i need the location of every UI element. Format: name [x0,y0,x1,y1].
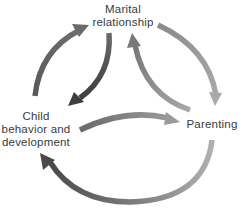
node-child-line-3: development [0,136,72,149]
node-child-behavior-development: Child behavior and development [0,110,72,149]
family-systems-diagram: Marital relationship Child behavior and … [0,0,241,208]
arrow-parenting-to-marital [127,33,190,110]
node-parenting-line-1: Parenting [184,118,240,131]
node-child-line-2: behavior and [0,123,72,136]
node-marital-relationship: Marital relationship [88,3,158,29]
arrows-layer [0,0,241,208]
node-marital-line-2: relationship [88,16,158,29]
arrow-marital-to-parenting [158,25,222,106]
arrow-marital-to-child [68,33,109,106]
node-marital-line-1: Marital [88,3,158,16]
arrow-child-to-parenting [80,112,180,130]
arrow-parenting-to-child [40,140,212,202]
arrow-child-to-marital [35,24,89,96]
node-parenting: Parenting [184,118,240,131]
node-child-line-1: Child [0,110,72,123]
